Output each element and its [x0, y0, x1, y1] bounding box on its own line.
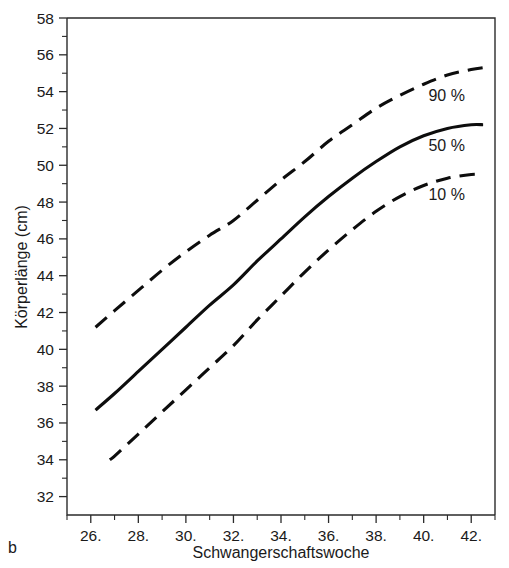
y-tick-label: 44: [37, 267, 55, 284]
y-tick-label: 50: [37, 157, 55, 174]
y-tick-label: 34: [37, 451, 55, 468]
x-tick-label: 36.: [318, 527, 340, 544]
x-axis-tick-labels: 26.28.30.32.34.36.38.40.42.: [80, 527, 482, 544]
chart-background: [0, 0, 509, 568]
y-tick-label: 40: [37, 341, 55, 358]
x-tick-label: 30.: [175, 527, 197, 544]
y-tick-label: 48: [37, 194, 54, 211]
y-tick-label: 54: [37, 83, 55, 100]
y-tick-label: 42: [37, 304, 54, 321]
y-tick-label: 56: [37, 46, 54, 63]
y-tick-label: 58: [37, 10, 54, 27]
y-tick-label: 32: [37, 488, 54, 505]
x-axis-title: Schwangerschaftswoche: [193, 544, 370, 561]
y-tick-label: 46: [37, 230, 54, 247]
y-tick-label: 36: [37, 414, 54, 431]
x-tick-label: 32.: [223, 527, 245, 544]
figure-panel-b: 26.28.30.32.34.36.38.40.42. 585654525048…: [0, 0, 509, 568]
x-tick-label: 34.: [270, 527, 292, 544]
x-tick-label: 26.: [80, 527, 102, 544]
panel-label: b: [8, 539, 17, 556]
x-tick-label: 28.: [128, 527, 150, 544]
x-tick-label: 42.: [460, 527, 482, 544]
y-tick-label: 52: [37, 120, 54, 137]
growth-chart: 26.28.30.32.34.36.38.40.42. 585654525048…: [0, 0, 509, 568]
x-tick-label: 40.: [413, 527, 435, 544]
series-label-50-percent: 50 %: [428, 137, 464, 154]
series-label-90-percent: 90 %: [428, 87, 464, 104]
x-tick-label: 38.: [365, 527, 387, 544]
y-axis-title: Körperlänge (cm): [13, 205, 30, 329]
y-tick-label: 38: [37, 378, 54, 395]
series-label-10-percent: 10 %: [428, 186, 464, 203]
